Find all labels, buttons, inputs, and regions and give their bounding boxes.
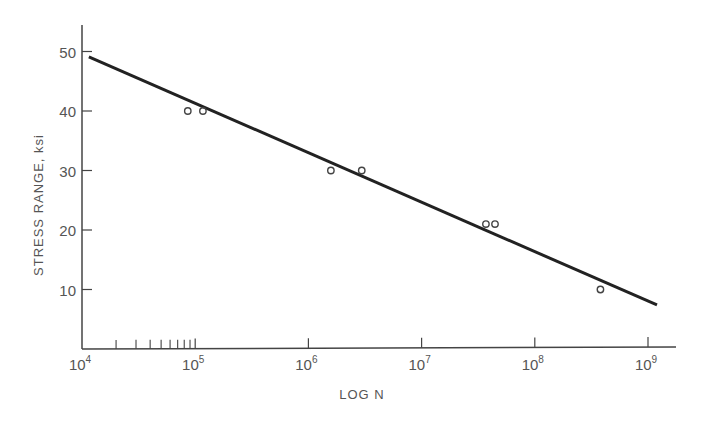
x-axis-title: LOG N (339, 387, 384, 402)
y-tick-label: 30 (59, 163, 76, 180)
y-tick-label: 10 (59, 282, 76, 299)
x-tick-label: 109 (635, 354, 658, 373)
s-n-fatigue-chart: 5040302010 104105106107108109 STRESS RAN… (0, 0, 708, 425)
regression-line (89, 57, 657, 305)
data-point-marker (483, 221, 489, 227)
y-axis-title: STRESS RANGE, ksi (31, 134, 46, 276)
y-tick-label: 20 (59, 222, 76, 239)
data-point-marker (185, 108, 191, 114)
data-points (185, 108, 604, 293)
regression-line-segment (89, 57, 657, 305)
x-axis: 104105106107108109 (69, 337, 676, 373)
y-axis: 5040302010 (59, 25, 92, 349)
x-tick-label: 106 (295, 354, 318, 373)
x-axis-line (82, 347, 676, 349)
x-tick-label: 105 (182, 354, 205, 373)
data-point-marker (597, 286, 603, 292)
x-tick-label: 104 (69, 354, 92, 373)
x-tick-label: 108 (522, 354, 545, 373)
y-tick-label: 40 (59, 103, 76, 120)
data-point-marker (328, 167, 334, 173)
x-tick-label: 107 (408, 354, 431, 373)
y-tick-label: 50 (59, 44, 76, 61)
data-point-marker (359, 167, 365, 173)
data-point-marker (492, 221, 498, 227)
data-point-marker (200, 108, 206, 114)
